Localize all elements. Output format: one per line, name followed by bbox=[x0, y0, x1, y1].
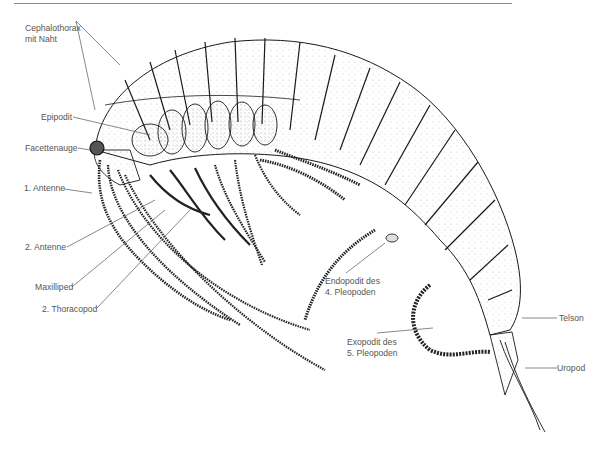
label-telson: Telson bbox=[559, 313, 584, 324]
label-epipodit: Epipodit bbox=[41, 112, 72, 123]
label-cephalothorax: Cephalothorax bbox=[25, 23, 81, 34]
label-facettenauge: Facettenauge bbox=[25, 143, 78, 154]
amphipod-illustration bbox=[0, 0, 602, 454]
telson-uropod bbox=[490, 332, 545, 432]
label-cephalothorax-sub: mit Naht bbox=[25, 34, 57, 45]
label-antenne-2: 2. Antenne bbox=[25, 242, 66, 253]
thoracic-legs bbox=[150, 150, 360, 265]
label-antenne-1: 1. Antenne bbox=[24, 183, 65, 194]
label-endopodit: Endopodit des bbox=[325, 276, 380, 287]
antennae bbox=[99, 160, 325, 370]
label-endopodit-sub: 4. Pleopoden bbox=[325, 287, 376, 298]
label-thoracopod-2: 2. Thoracopod bbox=[42, 304, 97, 315]
compound-eye bbox=[90, 141, 104, 155]
label-exopodit: Exopodit des bbox=[347, 337, 397, 348]
label-maxilliped: Maxilliped bbox=[35, 282, 73, 293]
label-exopodit-sub: 5. Pleopoden bbox=[347, 348, 398, 359]
label-uropod: Uropod bbox=[557, 363, 585, 374]
